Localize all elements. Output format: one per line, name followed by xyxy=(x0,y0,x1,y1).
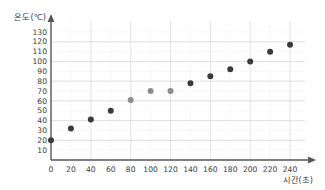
data-point xyxy=(287,42,293,48)
data-point xyxy=(88,117,94,123)
data-point xyxy=(68,125,74,131)
x-tick-label: 120 xyxy=(163,165,178,174)
data-point xyxy=(128,97,134,103)
x-tick-label: 100 xyxy=(143,165,158,174)
x-tick-label: 0 xyxy=(49,165,54,174)
chart-canvas: 102030405060708090100110120130 020406080… xyxy=(0,0,325,190)
data-point xyxy=(148,88,154,94)
y-tick-label: 100 xyxy=(33,57,48,66)
y-tick-label: 80 xyxy=(37,77,47,86)
y-tick-label: 40 xyxy=(37,116,47,125)
data-point xyxy=(207,73,213,79)
x-tick-label: 40 xyxy=(86,165,96,174)
y-tick-label: 20 xyxy=(37,136,47,145)
data-point xyxy=(168,88,174,94)
x-tick-label: 140 xyxy=(183,165,198,174)
data-point xyxy=(267,49,273,55)
x-tick-label: 180 xyxy=(223,165,238,174)
y-tick-label: 60 xyxy=(37,97,47,106)
x-tick-labels: 020406080100120140160180200220240 xyxy=(49,165,298,174)
y-tick-label: 110 xyxy=(33,47,48,56)
x-tick-label: 200 xyxy=(243,165,258,174)
y-axis-arrow-icon xyxy=(48,14,55,22)
y-axis-title: 온도(℃) xyxy=(14,12,46,22)
y-tick-label: 130 xyxy=(33,28,48,37)
x-tick-label: 20 xyxy=(66,165,76,174)
x-tick-label: 160 xyxy=(203,165,218,174)
scatter-chart: 102030405060708090100110120130 020406080… xyxy=(0,0,325,190)
data-point xyxy=(48,137,54,143)
x-tick-label: 60 xyxy=(106,165,116,174)
y-tick-label: 70 xyxy=(37,87,47,96)
data-point xyxy=(108,108,114,114)
x-tick-label: 240 xyxy=(283,165,298,174)
y-tick-label: 30 xyxy=(37,126,47,135)
x-axis-arrow-icon xyxy=(308,157,316,164)
data-point xyxy=(227,66,233,72)
x-tick-label: 80 xyxy=(126,165,136,174)
y-tick-labels: 102030405060708090100110120130 xyxy=(33,28,48,155)
y-tick-label: 90 xyxy=(37,67,47,76)
data-point xyxy=(247,58,253,64)
data-point xyxy=(187,80,193,86)
x-tick-label: 220 xyxy=(263,165,278,174)
x-axis-title: 시간(초) xyxy=(283,175,313,185)
y-tick-label: 50 xyxy=(37,106,47,115)
y-tick-label: 120 xyxy=(33,37,48,46)
y-tick-label: 10 xyxy=(37,146,47,155)
major-gridlines xyxy=(51,21,305,160)
